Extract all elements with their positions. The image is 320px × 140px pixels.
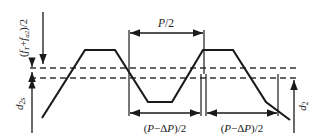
pitch-diameter-label-group: d2 <box>296 101 310 111</box>
pitch-right-close: )/2 <box>251 122 263 135</box>
pitch-diameter-subscript: 2 <box>301 101 310 105</box>
pitch-right-delta: Δ <box>237 122 244 134</box>
flank-close-slash: )/2 <box>18 19 30 31</box>
minor-diameter-subscript: 2s <box>18 98 27 105</box>
pitch-half-slash: /2 <box>165 17 174 29</box>
thread-profile-polyline <box>42 50 290 120</box>
pitch-half-p: P <box>157 17 165 29</box>
minor-diameter-label: d2s <box>13 98 27 110</box>
pitch-left-delta: Δ <box>160 122 167 134</box>
minor-diameter-label-group: d2s <box>13 98 27 110</box>
thread-profile-figure: (fT+fa2)/2 d2s d2 P/2 (P−ΔP)/2 (P−ΔP)/2 <box>0 0 320 140</box>
pitch-diameter-label: d2 <box>296 101 310 111</box>
pitch-left-segment-label: (P−ΔP)/2 <box>144 122 187 135</box>
figure-canvas: (fT+fa2)/2 d2s d2 P/2 (P−ΔP)/2 (P−ΔP)/2 <box>0 0 320 140</box>
pitch-half-label: P/2 <box>157 17 174 29</box>
flank-offset-label: (fT+fa2)/2 <box>18 19 31 57</box>
flank-offset-label-group: (fT+fa2)/2 <box>18 19 31 57</box>
extension-lines <box>129 30 278 116</box>
pitch-right-segment-label: (P−ΔP)/2 <box>221 122 264 135</box>
pitch-left-close: )/2 <box>174 122 186 135</box>
